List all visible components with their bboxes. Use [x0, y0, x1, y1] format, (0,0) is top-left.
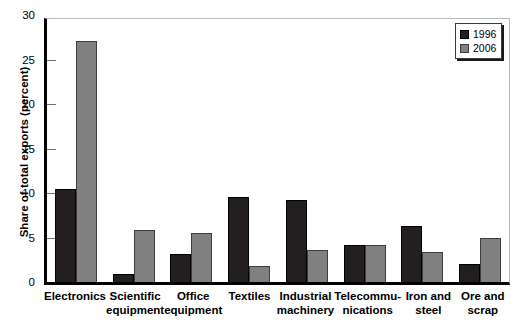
- bar-2006[interactable]: [191, 233, 212, 282]
- bar-group: [47, 19, 105, 282]
- y-tick-label: 0: [9, 276, 35, 288]
- category-label: Telecommu- nications: [334, 290, 401, 317]
- bar-group: [278, 19, 336, 282]
- bar-1996[interactable]: [286, 200, 307, 282]
- bar-groups: [47, 19, 509, 282]
- y-tick-label: 30: [9, 9, 35, 21]
- category-label: Industrial machinery: [277, 290, 335, 317]
- legend-item-2006: 2006: [460, 41, 496, 55]
- category-label: Iron and steel: [401, 290, 455, 317]
- legend-label: 1996: [473, 29, 496, 40]
- bar-2006[interactable]: [480, 238, 501, 283]
- y-tick-label: 5: [9, 232, 35, 244]
- category-label: Textiles: [222, 290, 276, 317]
- bar-group: [394, 19, 452, 282]
- bar-group: [220, 19, 278, 282]
- bar-1996[interactable]: [344, 245, 365, 282]
- y-tick-label: 15: [9, 143, 35, 155]
- bar-1996[interactable]: [170, 254, 191, 282]
- category-label: Office equipment: [164, 290, 222, 317]
- y-tick-label: 25: [9, 54, 35, 66]
- legend-label: 2006: [473, 43, 496, 54]
- bar-2006[interactable]: [76, 41, 97, 282]
- bar-2006[interactable]: [134, 230, 155, 283]
- y-tick-label: 10: [9, 187, 35, 199]
- bar-1996[interactable]: [55, 189, 76, 282]
- bar-1996[interactable]: [113, 274, 134, 282]
- category-label: Scientific equipment: [106, 290, 164, 317]
- bar-group: [336, 19, 394, 282]
- bar-group: [105, 19, 163, 282]
- bar-1996[interactable]: [459, 264, 480, 282]
- bar-2006[interactable]: [249, 266, 270, 282]
- gray-swatch-icon: [460, 44, 469, 53]
- x-axis-category-labels: ElectronicsScientific equipmentOffice eq…: [44, 290, 510, 317]
- bar-2006[interactable]: [307, 250, 328, 282]
- bar-group: [163, 19, 221, 282]
- dark-swatch-icon: [460, 30, 469, 39]
- bar-chart-figure: Share of total exports (percent) 0510152…: [0, 0, 521, 335]
- y-tick-label: 20: [9, 98, 35, 110]
- bar-2006[interactable]: [422, 252, 443, 282]
- bar-1996[interactable]: [228, 197, 249, 282]
- bar-1996[interactable]: [401, 226, 422, 282]
- bar-2006[interactable]: [365, 245, 386, 282]
- chart-legend: 1996 2006: [455, 23, 502, 59]
- category-label: Ore and scrap: [456, 290, 510, 317]
- plot-area: 051015202530: [44, 18, 510, 285]
- category-label: Electronics: [44, 290, 106, 317]
- legend-item-1996: 1996: [460, 27, 496, 41]
